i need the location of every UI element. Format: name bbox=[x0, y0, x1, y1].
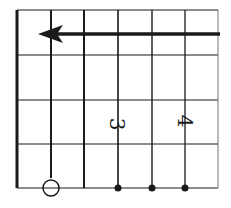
string-dot-icon bbox=[115, 185, 122, 192]
chord-diagram: 3 4 bbox=[0, 0, 231, 208]
barre-arrow-icon bbox=[38, 25, 220, 43]
string-dot-icon bbox=[149, 185, 156, 192]
finger-label-3: 3 bbox=[105, 118, 129, 131]
string-dot-icon bbox=[182, 185, 189, 192]
finger-label-4: 4 bbox=[173, 115, 197, 128]
